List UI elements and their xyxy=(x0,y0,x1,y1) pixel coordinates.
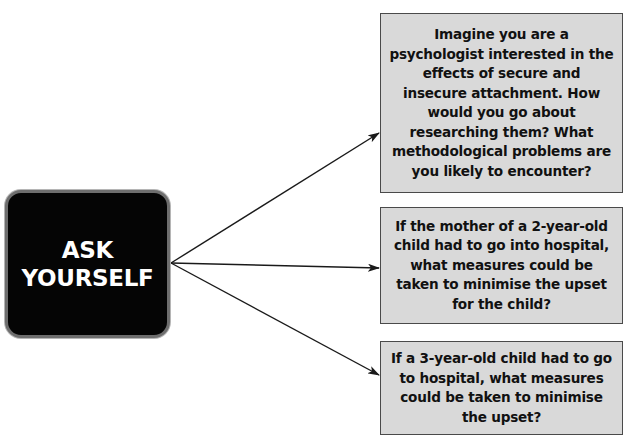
ask-yourself-box: ASK YOURSELF xyxy=(5,190,170,338)
question-box-3: If a 3-year-old child had to go to hospi… xyxy=(380,341,623,435)
ask-yourself-line-1: ASK xyxy=(62,236,113,264)
question-box-1: Imagine you are a psychologist intereste… xyxy=(380,13,623,193)
arrow-to-question-2 xyxy=(171,263,379,268)
arrow-to-question-3 xyxy=(171,263,379,375)
ask-yourself-line-2: YOURSELF xyxy=(21,264,153,292)
question-text-1: Imagine you are a psychologist intereste… xyxy=(389,25,614,181)
question-text-2: If the mother of a 2-year-old child had … xyxy=(389,217,614,315)
question-text-3: If a 3-year-old child had to go to hospi… xyxy=(389,349,614,427)
arrow-to-question-1 xyxy=(171,133,379,263)
question-box-2: If the mother of a 2-year-old child had … xyxy=(380,207,623,324)
